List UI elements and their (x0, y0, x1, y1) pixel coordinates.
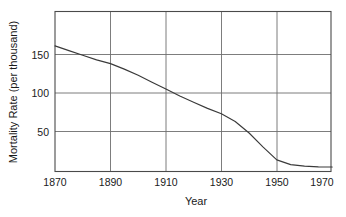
y-tick-label-100: 100 (31, 87, 49, 99)
chart-screenshot: 150 100 50 1870 1890 1910 1930 1950 1970… (0, 0, 346, 217)
mortality-rate-line-chart: 150 100 50 1870 1890 1910 1930 1950 1970… (0, 0, 346, 217)
y-tick-label-150: 150 (31, 49, 49, 61)
x-tick-label-1930: 1930 (210, 176, 234, 188)
y-axis-title: Mortality Rate (per thousand) (7, 21, 19, 163)
x-tick-label-1870: 1870 (43, 176, 67, 188)
y-tick-label-50: 50 (37, 126, 49, 138)
x-tick-label-1910: 1910 (154, 176, 178, 188)
x-axis-title: Year (185, 195, 208, 207)
x-tick-label-1950: 1950 (265, 176, 289, 188)
x-tick-label-1970: 1970 (310, 176, 334, 188)
x-tick-label-1890: 1890 (99, 176, 123, 188)
